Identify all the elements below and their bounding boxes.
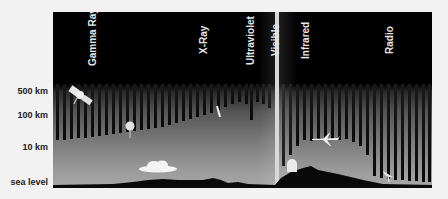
ray-line	[119, 84, 122, 133]
balloon-icon	[125, 121, 135, 139]
ray-line	[203, 84, 206, 115]
ray-line	[56, 84, 59, 140]
ray-line	[161, 84, 164, 127]
ray-line	[210, 84, 213, 113]
ray-line	[338, 84, 341, 140]
band-label-gamma-ray: Gamma Ray	[87, 12, 98, 66]
ray-line	[231, 84, 234, 104]
ray-line	[105, 84, 108, 135]
ray-line	[63, 84, 66, 140]
altitude-label: sea level	[0, 177, 48, 187]
radio-dish-icon	[381, 169, 395, 183]
ray-line	[245, 84, 248, 104]
spectrum-diagram: Gamma RayX-RayUltravioletVisibleInfrared…	[53, 12, 432, 188]
ray-line	[250, 84, 253, 120]
space-region	[53, 12, 432, 84]
ray-line	[98, 84, 101, 136]
band-label-visible: Visible	[270, 24, 281, 56]
ray-line	[175, 84, 178, 123]
ray-line	[303, 84, 306, 140]
ground-terrain	[53, 158, 432, 188]
band-label-infrared: Infrared	[300, 21, 311, 58]
altitude-label: 10 km	[0, 142, 48, 152]
airplane-icon	[311, 133, 341, 147]
ray-line	[317, 84, 320, 140]
ray-line	[189, 84, 192, 119]
satellite-icon	[68, 85, 94, 107]
ray-line	[352, 84, 355, 142]
ray-line	[147, 84, 150, 129]
altitude-label: 100 km	[0, 110, 48, 120]
ray-line	[154, 84, 157, 128]
ray-line	[168, 84, 171, 125]
ray-line	[359, 84, 362, 146]
ray-line	[324, 84, 327, 138]
observatory-dome-icon	[286, 158, 298, 172]
ray-line	[182, 84, 185, 121]
ray-line	[238, 84, 241, 102]
band-label-x-ray: X-Ray	[198, 26, 209, 54]
ray-line	[331, 84, 334, 140]
cloud-icon	[138, 159, 178, 173]
ray-line	[366, 84, 369, 155]
ray-line	[112, 84, 115, 134]
ray-line	[196, 84, 199, 117]
band-label-ultraviolet: Ultraviolet	[245, 16, 256, 65]
rocket-icon	[216, 105, 222, 119]
band-label-radio: Radio	[384, 26, 395, 54]
ray-line	[224, 84, 227, 107]
altitude-label: 500 km	[0, 86, 48, 96]
ray-line	[345, 84, 348, 139]
ray-line	[140, 84, 143, 130]
